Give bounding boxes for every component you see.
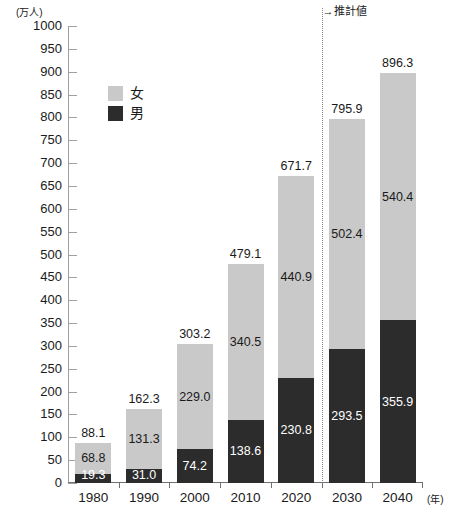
y-axis-tick-label: 800 xyxy=(40,109,62,124)
bar-group-2010[interactable]: 340.5138.6479.12010 xyxy=(228,264,264,483)
y-axis-tick: 550 xyxy=(68,232,77,233)
bar-group-2000[interactable]: 229.074.2303.22000 xyxy=(177,344,213,483)
x-axis-unit-label: (年) xyxy=(427,491,444,506)
y-axis-tick-label: 1000 xyxy=(33,18,62,33)
y-axis-tick: 450 xyxy=(68,277,77,278)
y-axis-tick-label: 0 xyxy=(55,475,62,490)
x-axis-tick xyxy=(422,483,423,488)
x-axis-label-2040: 2040 xyxy=(367,490,429,505)
y-axis-tick: 650 xyxy=(68,186,77,187)
y-axis-tick-label: 900 xyxy=(40,64,62,79)
bar-value-label-male-2040: 355.9 xyxy=(380,395,416,409)
legend-swatch-male-icon xyxy=(108,106,123,121)
y-axis-tick: 950 xyxy=(68,49,77,50)
y-axis-tick-label: 50 xyxy=(48,452,62,467)
y-axis-tick: 150 xyxy=(68,414,77,415)
y-axis-unit-label: (万人) xyxy=(16,4,43,19)
y-axis-tick-label: 400 xyxy=(40,292,62,307)
y-axis-tick: 800 xyxy=(68,117,77,118)
y-axis-tick: 350 xyxy=(68,323,77,324)
x-axis-tick xyxy=(322,483,323,488)
x-axis-tick xyxy=(169,483,170,488)
bar-value-label-male-2020: 230.8 xyxy=(278,423,314,437)
bar-value-label-female-2040: 540.4 xyxy=(380,190,416,204)
y-axis-tick: 700 xyxy=(68,163,77,164)
y-axis-tick-label: 750 xyxy=(40,132,62,147)
bar-value-label-female-1990: 131.3 xyxy=(126,432,162,446)
y-axis-tick-label: 450 xyxy=(40,269,62,284)
legend-label-female: 女 xyxy=(130,86,144,101)
bar-value-label-male-1990: 31.0 xyxy=(126,468,162,482)
y-axis-tick: 500 xyxy=(68,255,77,256)
x-axis-tick xyxy=(271,483,272,488)
bar-total-label-1990: 162.3 xyxy=(126,392,162,406)
y-axis-tick: 900 xyxy=(68,72,77,73)
y-axis-tick: 300 xyxy=(68,346,77,347)
stacked-bar-chart: (万人) 10009509008508007507006506005505004… xyxy=(0,0,451,514)
legend-item-female: 女 xyxy=(108,86,144,101)
forecast-divider-line xyxy=(322,8,323,483)
bar-value-label-female-2010: 340.5 xyxy=(228,335,264,349)
bar-total-label-2010: 479.1 xyxy=(228,247,264,261)
y-axis-tick-label: 650 xyxy=(40,178,62,193)
y-axis-tick: 0 xyxy=(68,483,77,484)
y-axis-tick-label: 250 xyxy=(40,361,62,376)
chart-legend: 女 男 xyxy=(108,86,144,121)
y-axis-tick: 1000 xyxy=(68,26,77,27)
y-axis-tick-label: 550 xyxy=(40,224,62,239)
bar-value-label-male-2030: 293.5 xyxy=(329,409,365,423)
x-axis-tick xyxy=(372,483,373,488)
legend-swatch-female-icon xyxy=(108,86,123,101)
bar-group-2020[interactable]: 440.9230.8671.72020 xyxy=(278,176,314,483)
y-axis-tick-label: 850 xyxy=(40,87,62,102)
x-axis-tick xyxy=(119,483,120,488)
bar-total-label-1980: 88.1 xyxy=(75,426,111,440)
bar-value-label-male-2010: 138.6 xyxy=(228,444,264,458)
bar-total-label-2030: 795.9 xyxy=(329,102,365,116)
bar-value-label-female-1980: 68.8 xyxy=(75,451,111,465)
bar-value-label-male-1980: 19.3 xyxy=(75,468,111,482)
bar-total-label-2040: 896.3 xyxy=(380,56,416,70)
y-axis-tick-label: 100 xyxy=(40,429,62,444)
bar-group-1990[interactable]: 131.331.0162.31990 xyxy=(126,409,162,483)
legend-item-male: 男 xyxy=(108,106,144,121)
y-axis-tick: 250 xyxy=(68,369,77,370)
y-axis-tick-label: 700 xyxy=(40,155,62,170)
y-axis-tick: 600 xyxy=(68,209,77,210)
y-axis-tick: 400 xyxy=(68,300,77,301)
bar-value-label-female-2000: 229.0 xyxy=(177,390,213,404)
bar-total-label-2000: 303.2 xyxy=(177,327,213,341)
y-axis-tick-label: 950 xyxy=(40,41,62,56)
y-axis-tick-label: 350 xyxy=(40,315,62,330)
y-axis-tick-label: 500 xyxy=(40,247,62,262)
x-axis-tick xyxy=(220,483,221,488)
bar-group-1980[interactable]: 68.819.388.11980 xyxy=(75,443,111,483)
bar-group-2040[interactable]: 540.4355.9896.32040 xyxy=(380,73,416,483)
y-axis-tick-label: 150 xyxy=(40,406,62,421)
bar-value-label-female-2030: 502.4 xyxy=(329,227,365,241)
bar-value-label-female-2020: 440.9 xyxy=(278,270,314,284)
forecast-divider-note: →推計値 xyxy=(323,2,367,18)
bar-group-2030[interactable]: 502.4293.5795.92030 xyxy=(329,119,365,483)
y-axis-tick-label: 200 xyxy=(40,384,62,399)
y-axis-tick-label: 300 xyxy=(40,338,62,353)
y-axis-tick: 200 xyxy=(68,392,77,393)
bar-value-label-male-2000: 74.2 xyxy=(177,459,213,473)
legend-label-male: 男 xyxy=(130,106,144,121)
y-axis-tick: 750 xyxy=(68,140,77,141)
bar-total-label-2020: 671.7 xyxy=(278,159,314,173)
y-axis-tick-label: 600 xyxy=(40,201,62,216)
y-axis-tick: 850 xyxy=(68,95,77,96)
